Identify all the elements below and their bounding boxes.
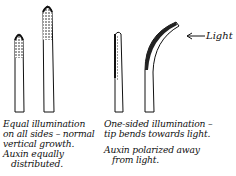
bending-shoot bbox=[145, 22, 179, 112]
short-shoot-equal bbox=[15, 34, 24, 112]
phototropism-diagram: Light Equal illumination on all sides – … bbox=[0, 0, 236, 176]
straight-shoot-one-sided bbox=[115, 32, 123, 112]
light-arrow-icon bbox=[187, 33, 205, 39]
caption-line: distributed. bbox=[3, 159, 95, 169]
tall-shoot-equal bbox=[43, 6, 54, 112]
caption-one-sided-illumination: One-sided illumination – tip bends towar… bbox=[104, 119, 212, 165]
caption-line: tip bends towards light. bbox=[104, 129, 212, 139]
caption-line: from light. bbox=[104, 155, 212, 165]
caption-equal-illumination: Equal illumination on all sides – normal… bbox=[3, 119, 95, 169]
light-label: Light bbox=[206, 30, 233, 41]
